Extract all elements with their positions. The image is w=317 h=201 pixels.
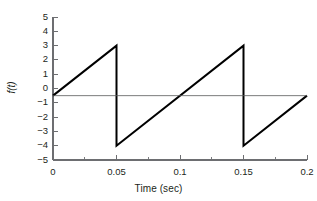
y-axis-tick-label: 2 — [26, 54, 48, 64]
axes-group — [53, 17, 307, 160]
x-axis-tick-label: 0 — [33, 167, 73, 177]
x-axis-tick-label: 0.1 — [160, 167, 200, 177]
x-axis-tick-label: 0.15 — [224, 167, 264, 177]
data-series-group — [53, 46, 307, 146]
y-axis-tick-label: 5 — [26, 12, 48, 22]
y-axis-label-wrapper: f(t) — [3, 72, 19, 108]
y-axis-tick-label: 1 — [26, 69, 48, 79]
y-axis-tick-label: 3 — [26, 40, 48, 50]
x-axis-tick-label: 0.2 — [287, 167, 317, 177]
y-axis-tick-label: −2 — [26, 112, 48, 122]
y-axis-tick-label: −5 — [26, 155, 48, 165]
y-axis-label: f(t) — [6, 69, 17, 107]
y-axis-tick-label: 0 — [26, 83, 48, 93]
axis-ticks-group — [53, 17, 307, 160]
y-axis-tick-label: −3 — [26, 126, 48, 136]
x-axis-label: Time (sec) — [0, 183, 317, 194]
chart-figure: 543210−1−2−3−4−5 00.050.10.150.2 f(t) Ti… — [0, 0, 317, 201]
x-axis-tick-label: 0.05 — [97, 167, 137, 177]
y-axis-tick-label: −4 — [26, 140, 48, 150]
y-axis-tick-label: −1 — [26, 97, 48, 107]
y-axis-tick-label: 4 — [26, 26, 48, 36]
